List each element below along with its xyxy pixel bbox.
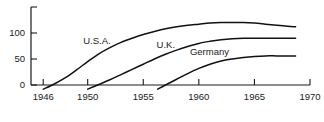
- x-tick-label-1965: 1965: [244, 91, 265, 102]
- x-tick-label-1955: 1955: [133, 91, 154, 102]
- x-tick-label-1960: 1960: [188, 91, 209, 102]
- series-label-germany: Germany: [190, 46, 229, 57]
- y-tick-label-0: 0: [20, 79, 25, 90]
- series-curves: [43, 23, 295, 90]
- y-axis-group: 050100: [9, 7, 37, 90]
- x-axis-group: 194619501955196019651970: [31, 79, 321, 102]
- x-tick-label-1950: 1950: [77, 91, 98, 102]
- x-tick-label-1970: 1970: [299, 91, 320, 102]
- y-tick-label-100: 100: [9, 27, 25, 38]
- series-label-u-s-a: U.S.A.: [83, 35, 110, 46]
- y-tick-marks: [31, 7, 37, 85]
- series-label-u-k: U.K.: [157, 39, 175, 50]
- y-tick-labels: 050100: [9, 27, 25, 90]
- x-tick-label-1946: 1946: [33, 91, 54, 102]
- series-annotations: U.S.A.U.K.Germany: [83, 35, 229, 56]
- x-tick-labels: 194619501955196019651970: [33, 91, 321, 102]
- line-chart-figure: 050100 194619501955196019651970 U.S.A.U.…: [0, 0, 324, 122]
- y-tick-label-50: 50: [14, 53, 25, 64]
- chart-canvas: 050100 194619501955196019651970 U.S.A.U.…: [0, 0, 324, 122]
- series-curve-germany: [158, 56, 296, 89]
